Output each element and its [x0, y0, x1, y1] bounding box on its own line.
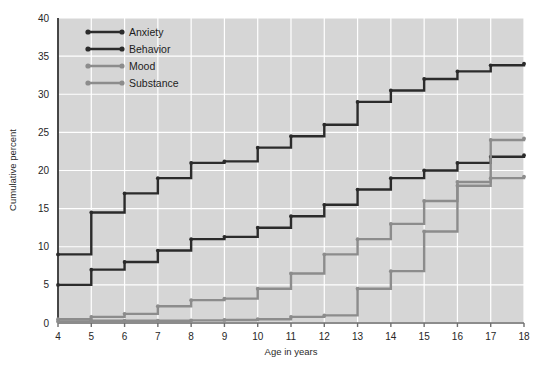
- data-point: [156, 319, 160, 323]
- data-point: [256, 287, 260, 291]
- y-tick-label: 0: [43, 318, 49, 329]
- data-point: [123, 260, 127, 264]
- data-point: [156, 176, 160, 180]
- data-point: [489, 63, 493, 67]
- data-point: [289, 272, 293, 276]
- data-point: [89, 211, 93, 215]
- data-point: [56, 252, 60, 256]
- legend-swatch-dot-left: [85, 29, 90, 34]
- data-point: [489, 138, 493, 142]
- data-point: [223, 297, 227, 301]
- data-point: [322, 123, 326, 127]
- x-tick-label: 5: [89, 331, 95, 342]
- y-axis-title: Cumulative percent: [7, 129, 18, 211]
- data-point: [223, 159, 227, 163]
- data-point: [123, 319, 127, 323]
- legend-label: Substance: [129, 77, 179, 89]
- x-axis-title: Age in years: [265, 346, 318, 357]
- legend-swatch-dot-left: [85, 46, 90, 51]
- data-point: [289, 134, 293, 138]
- legend-swatch-dot-right: [119, 46, 124, 51]
- data-point: [56, 283, 60, 287]
- cumulative-percent-step-chart: 0510152025303540 45678910111213141516171…: [0, 0, 553, 366]
- data-point: [389, 89, 393, 93]
- data-point: [189, 318, 193, 322]
- data-point: [256, 146, 260, 150]
- y-tick-label: 20: [38, 165, 50, 176]
- data-point: [389, 176, 393, 180]
- data-point: [489, 176, 493, 180]
- x-tick-label: 9: [222, 331, 228, 342]
- x-tick-label: 16: [452, 331, 464, 342]
- data-point: [422, 230, 426, 234]
- data-point: [356, 188, 360, 192]
- data-point: [189, 237, 193, 241]
- legend-label: Anxiety: [129, 26, 164, 38]
- data-point: [456, 184, 460, 188]
- legend-swatch-dot-right: [119, 63, 124, 68]
- legend-label: Mood: [129, 60, 155, 72]
- y-tick-label: 10: [38, 241, 50, 252]
- y-tick-label: 5: [43, 279, 49, 290]
- x-tick-label: 10: [252, 331, 264, 342]
- x-tick-label: 4: [55, 331, 61, 342]
- data-point: [456, 69, 460, 73]
- data-point: [356, 287, 360, 291]
- data-point: [422, 77, 426, 81]
- data-point: [422, 169, 426, 173]
- data-point: [89, 319, 93, 323]
- y-tick-label: 15: [38, 203, 50, 214]
- data-point: [189, 161, 193, 165]
- data-point: [123, 312, 127, 316]
- data-point: [322, 313, 326, 317]
- legend-swatch-dot-left: [85, 63, 90, 68]
- data-point: [256, 317, 260, 321]
- data-point: [89, 268, 93, 272]
- data-point: [289, 315, 293, 319]
- data-point: [123, 191, 127, 195]
- x-tick-label: 18: [518, 331, 530, 342]
- data-point: [456, 161, 460, 165]
- legend-swatch-dot-right: [119, 80, 124, 85]
- data-point: [522, 175, 526, 179]
- x-tick-label: 14: [385, 331, 397, 342]
- data-point: [322, 252, 326, 256]
- y-tick-label: 35: [38, 51, 50, 62]
- y-tick-label: 25: [38, 127, 50, 138]
- x-tick-label: 8: [188, 331, 194, 342]
- legend-swatch-dot-left: [85, 80, 90, 85]
- data-point: [289, 214, 293, 218]
- data-point: [522, 62, 526, 66]
- chart-container: 0510152025303540 45678910111213141516171…: [0, 0, 553, 366]
- data-point: [456, 180, 460, 184]
- data-point: [356, 237, 360, 241]
- data-point: [223, 318, 227, 322]
- data-point: [223, 235, 227, 239]
- legend-swatch-dot-right: [119, 29, 124, 34]
- legend-label: Behavior: [129, 43, 171, 55]
- y-tick-label: 30: [38, 89, 50, 100]
- data-point: [156, 249, 160, 253]
- data-point: [156, 304, 160, 308]
- data-point: [89, 315, 93, 319]
- data-point: [389, 269, 393, 273]
- x-tick-label: 11: [286, 331, 297, 342]
- data-point: [256, 226, 260, 230]
- data-point: [356, 100, 360, 104]
- x-tick-label: 17: [485, 331, 497, 342]
- data-point: [189, 298, 193, 302]
- x-tick-label: 7: [155, 331, 161, 342]
- x-tick-label: 12: [319, 331, 331, 342]
- data-point: [389, 222, 393, 226]
- data-point: [422, 199, 426, 203]
- x-tick-label: 15: [419, 331, 431, 342]
- data-point: [522, 153, 526, 157]
- data-point: [322, 203, 326, 207]
- x-tick-label: 6: [122, 331, 128, 342]
- y-tick-label: 40: [38, 13, 50, 24]
- data-point: [56, 320, 60, 324]
- data-point: [522, 137, 526, 141]
- x-tick-label: 13: [352, 331, 364, 342]
